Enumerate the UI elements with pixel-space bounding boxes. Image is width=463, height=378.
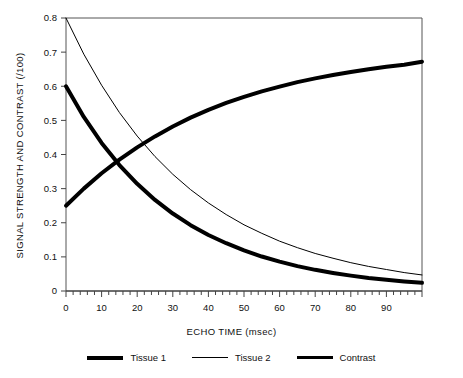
y-axis-tick-label: 0.7 — [44, 47, 57, 58]
y-axis-tick-label: 0.3 — [44, 183, 57, 194]
legend-item-tissue-2: Tissue 2 — [192, 352, 271, 363]
y-axis-tick-label: 0.1 — [44, 251, 57, 262]
x-axis-tick-label: 20 — [132, 302, 143, 313]
y-axis-tick-label: 0.2 — [44, 217, 57, 228]
legend-swatch-tissue-1 — [87, 356, 123, 360]
x-axis-title: ECHO TIME (msec) — [0, 326, 463, 337]
curves-layer — [66, 18, 422, 283]
series-line-contrast — [66, 62, 422, 206]
series-line-tissue-2 — [66, 18, 422, 275]
x-axis-tick-label: 80 — [346, 302, 357, 313]
x-axis-tick-label: 10 — [96, 302, 107, 313]
x-axis-tick-label: 60 — [274, 302, 285, 313]
legend-label-contrast: Contrast — [340, 352, 376, 363]
x-axis-tick-label: 0 — [63, 302, 68, 313]
axes-layer: 00.10.20.30.40.50.60.70.8010203040506070… — [44, 12, 422, 313]
y-axis-tick-label: 0 — [52, 285, 57, 296]
y-axis-tick-label: 0.6 — [44, 81, 57, 92]
legend-swatch-tissue-2 — [192, 357, 228, 358]
series-line-tissue-1 — [66, 86, 422, 283]
legend-item-tissue-1: Tissue 1 — [87, 352, 166, 363]
chart-legend: Tissue 1 Tissue 2 Contrast — [0, 352, 463, 363]
x-axis-tick-label: 70 — [310, 302, 321, 313]
chart-figure: SIGNAL STRENGTH AND CONTRAST (/100) 00.1… — [0, 0, 463, 378]
legend-label-tissue-2: Tissue 2 — [235, 352, 271, 363]
x-axis-tick-label: 90 — [381, 302, 392, 313]
plot-canvas: 00.10.20.30.40.50.60.70.8010203040506070… — [0, 0, 463, 378]
y-axis-tick-label: 0.4 — [44, 149, 57, 160]
legend-swatch-contrast — [297, 356, 333, 359]
y-axis-tick-label: 0.8 — [44, 12, 57, 23]
x-axis-tick-label: 50 — [239, 302, 250, 313]
x-axis-tick-label: 40 — [203, 302, 214, 313]
y-axis-tick-label: 0.5 — [44, 115, 57, 126]
x-axis-tick-label: 30 — [168, 302, 179, 313]
legend-item-contrast: Contrast — [297, 352, 376, 363]
legend-label-tissue-1: Tissue 1 — [130, 352, 166, 363]
